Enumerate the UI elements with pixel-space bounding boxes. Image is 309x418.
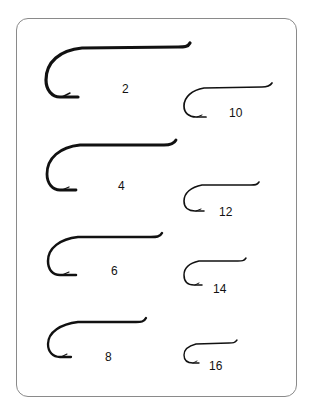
hook-size-label: 2 <box>122 82 129 96</box>
hook-drawings <box>0 0 309 418</box>
hook-size-14-icon <box>184 258 246 285</box>
hook-size-label: 16 <box>209 359 222 373</box>
hook-size-label: 10 <box>229 106 242 120</box>
hook-size-6-icon <box>48 233 162 275</box>
hook-size-10-icon <box>184 83 272 117</box>
hook-size-label: 4 <box>118 179 125 193</box>
hook-size-2-icon <box>46 43 190 97</box>
hook-size-label: 14 <box>213 282 226 296</box>
hook-size-label: 8 <box>105 350 112 364</box>
hook-size-4-icon <box>47 140 176 190</box>
hook-size-8-icon <box>48 318 146 357</box>
hook-size-label: 12 <box>219 205 232 219</box>
hook-size-label: 6 <box>111 264 118 278</box>
